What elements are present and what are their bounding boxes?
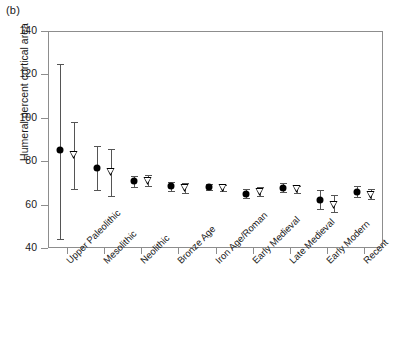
data-point-open-triangle — [255, 188, 263, 196]
y-tick-label: 120 — [0, 67, 37, 79]
y-tick-mark — [41, 74, 48, 75]
y-tick-mark — [41, 161, 48, 162]
data-point-filled-circle — [242, 190, 249, 197]
error-bar-cap — [57, 64, 64, 65]
data-point-filled-circle — [279, 184, 286, 191]
y-tick-mark — [41, 248, 48, 249]
error-bar-cap — [108, 196, 115, 197]
error-bar-cap — [257, 196, 264, 197]
error-bar-cap — [145, 186, 152, 187]
error-bar-cap — [280, 192, 287, 193]
error-bar-cap — [354, 197, 361, 198]
y-tick-label: 140 — [0, 24, 37, 36]
data-point-filled-circle — [354, 188, 361, 195]
y-tick-mark — [41, 31, 48, 32]
y-tick-label: 100 — [0, 111, 37, 123]
error-bar-cap — [94, 190, 101, 191]
error-bar-cap — [71, 189, 78, 190]
data-point-open-triangle — [218, 184, 226, 192]
error-bar-cap — [243, 198, 250, 199]
figure-panel-b: (b) Humeral percent cortical area 406080… — [0, 0, 394, 338]
error-bar-cap — [131, 187, 138, 188]
data-point-filled-circle — [131, 178, 138, 185]
y-tick-label: 40 — [0, 241, 37, 253]
data-point-filled-circle — [168, 183, 175, 190]
error-bar-cap — [108, 149, 115, 150]
error-bar-cap — [331, 195, 338, 196]
data-point-open-triangle — [367, 191, 375, 199]
plot-area — [48, 31, 383, 248]
error-bar-cap — [354, 186, 361, 187]
y-tick-label: 80 — [0, 154, 37, 166]
y-tick-mark — [41, 118, 48, 119]
data-point-open-triangle — [106, 168, 114, 176]
error-bar-cap — [168, 191, 175, 192]
data-point-filled-circle — [56, 147, 63, 154]
error-bar-cap — [331, 212, 338, 213]
y-tick-mark — [41, 205, 48, 206]
data-point-filled-circle — [205, 184, 212, 191]
error-bar-cap — [182, 193, 189, 194]
data-point-open-triangle — [144, 177, 152, 185]
error-bar-cap — [57, 239, 64, 240]
error-bar-cap — [317, 209, 324, 210]
data-point-open-triangle — [292, 185, 300, 193]
error-bar-cap — [131, 176, 138, 177]
error-bar-cap — [368, 199, 375, 200]
data-point-open-triangle — [330, 201, 338, 209]
data-point-filled-circle — [93, 164, 100, 171]
data-point-open-triangle — [69, 151, 77, 159]
error-bar-cap — [94, 146, 101, 147]
error-bar-cap — [317, 190, 324, 191]
error-bar-cap — [71, 122, 78, 123]
y-tick-label: 60 — [0, 198, 37, 210]
data-point-filled-circle — [317, 196, 324, 203]
data-point-open-triangle — [181, 184, 189, 192]
